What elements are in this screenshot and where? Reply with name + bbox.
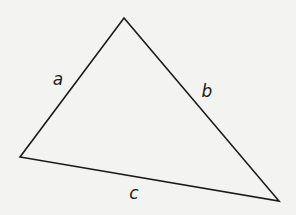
triangle-outline (20, 18, 279, 201)
triangle-diagram: a b c (0, 0, 296, 215)
triangle-shape (0, 0, 296, 215)
side-label-b: b (202, 83, 213, 100)
side-label-c: c (129, 185, 138, 202)
side-label-a: a (53, 71, 63, 88)
